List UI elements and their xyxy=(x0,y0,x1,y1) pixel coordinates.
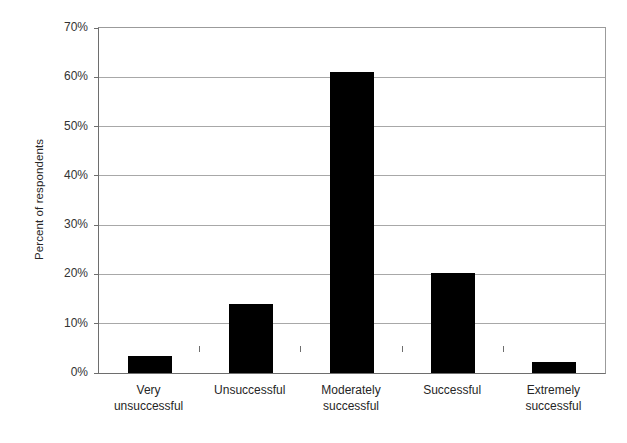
y-axis-tick-label: 20% xyxy=(46,267,88,279)
x-axis-category-label-line: Unsuccessful xyxy=(199,382,300,398)
x-axis-category-label: Unsuccessful xyxy=(199,382,300,398)
x-axis-tick-mark xyxy=(199,346,200,352)
x-axis-tick-mark xyxy=(402,346,403,352)
x-axis-category-label-line: Very xyxy=(98,382,199,398)
x-axis-tick-mark xyxy=(503,346,504,352)
bar xyxy=(229,304,273,373)
bar xyxy=(330,72,374,373)
y-axis-tick-mark xyxy=(94,28,99,29)
y-axis-tick-label: 30% xyxy=(46,218,88,230)
y-axis-tick-mark xyxy=(94,77,99,78)
bar xyxy=(128,356,172,373)
y-axis-tick-label: 40% xyxy=(46,169,88,181)
y-axis-tick-mark xyxy=(94,274,99,275)
x-axis-category-label-line: Successful xyxy=(402,382,503,398)
x-axis-category-label: Successful xyxy=(402,382,503,398)
x-axis-category-label-line: Moderately xyxy=(300,382,401,398)
bar xyxy=(532,362,576,373)
y-axis-tick-mark xyxy=(94,225,99,226)
x-axis-category-label-line: unsuccessful xyxy=(98,398,199,414)
y-axis-tick-label: 0% xyxy=(46,366,88,378)
y-axis-tick-label: 50% xyxy=(46,120,88,132)
x-axis-category-label-line: successful xyxy=(503,398,604,414)
bar-chart: Percent of respondents 0%10%20%30%40%50%… xyxy=(0,0,627,443)
x-axis-category-label-line: successful xyxy=(300,398,401,414)
y-axis-tick-label: 60% xyxy=(46,70,88,82)
y-axis-tick-mark xyxy=(94,126,99,127)
y-axis-tick-label: 10% xyxy=(46,317,88,329)
x-axis-category-label: Moderatelysuccessful xyxy=(300,382,401,414)
bar xyxy=(431,273,475,373)
y-axis-tick-mark xyxy=(94,323,99,324)
y-axis-tick-mark xyxy=(94,175,99,176)
x-axis-tick-labels: VeryunsuccessfulUnsuccessfulModeratelysu… xyxy=(98,382,604,437)
x-axis-category-label: Extremelysuccessful xyxy=(503,382,604,414)
x-axis-category-label: Veryunsuccessful xyxy=(98,382,199,414)
y-axis-tick-labels: 0%10%20%30%40%50%60%70% xyxy=(46,0,88,443)
y-axis-tick-mark xyxy=(94,373,99,374)
y-axis-tick-label: 70% xyxy=(46,21,88,33)
x-axis-category-label-line: Extremely xyxy=(503,382,604,398)
plot-area xyxy=(98,27,606,374)
x-axis-tick-mark xyxy=(300,346,301,352)
